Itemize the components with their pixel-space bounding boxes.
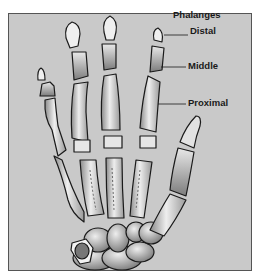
hand-skeleton-illustration bbox=[0, 0, 259, 279]
middle-finger-bones bbox=[101, 16, 124, 218]
carpal-bones bbox=[71, 222, 163, 270]
index-finger-bones bbox=[130, 28, 164, 218]
phalanges-title: Phalanges bbox=[173, 10, 221, 20]
middle-label: Middle bbox=[188, 61, 218, 71]
distal-label: Distal bbox=[190, 26, 216, 36]
proximal-label: Proximal bbox=[188, 98, 228, 108]
thumb-bones bbox=[150, 116, 201, 236]
